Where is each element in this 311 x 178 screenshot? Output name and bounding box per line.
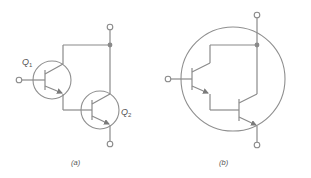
caption-a: (a)	[71, 158, 81, 167]
darlington-diagram: Q1 Q2 (a) (b)	[0, 0, 311, 178]
emitter-terminal	[254, 142, 260, 148]
junction-dot	[108, 43, 113, 48]
transistor-q1-collector	[45, 64, 63, 74]
caption-b: (b)	[219, 158, 229, 167]
transistor-1-collector	[192, 63, 210, 72]
transistor-q2-collector	[92, 94, 110, 104]
collector-terminal	[107, 24, 113, 30]
transistor-1-emitter-arrow	[192, 86, 208, 93]
panel-b: (b)	[165, 12, 285, 167]
panel-a: Q1 Q2 (a)	[16, 24, 132, 167]
transistor-q2-emitter-arrow	[92, 116, 109, 124]
transistor-2-collector	[239, 94, 257, 103]
transistor-2-emitter-arrow	[239, 117, 256, 125]
base-terminal	[16, 77, 22, 83]
transistor-q1	[22, 45, 71, 110]
collector-terminal	[254, 12, 260, 18]
label-q2: Q2	[121, 107, 132, 118]
base-terminal	[165, 76, 171, 82]
label-q1: Q1	[22, 57, 33, 68]
emitter-terminal	[107, 141, 113, 147]
combined-envelope	[181, 27, 285, 131]
transistor-q1-emitter-arrow	[45, 86, 62, 93]
transistor-q2	[81, 45, 119, 141]
junction-dot	[255, 43, 260, 48]
